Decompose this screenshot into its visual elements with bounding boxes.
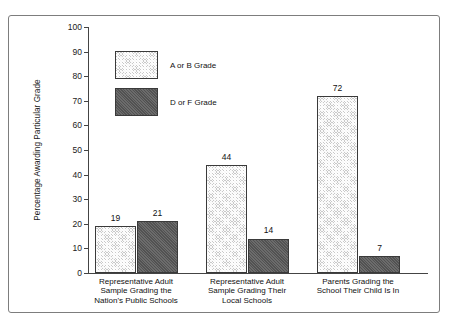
y-tick-100	[84, 27, 88, 28]
y-tick-label-100: 100	[56, 23, 82, 31]
category-label-3-line-2: School Their Child Is In	[293, 286, 423, 295]
bar-value-group2-a-or-b: 44	[206, 153, 247, 162]
bar-group1-a-or-b	[95, 226, 136, 273]
y-tick-label-20: 20	[56, 220, 82, 228]
category-label-3-line-1: Parents Grading the	[293, 277, 423, 286]
bar-group2-d-or-f	[248, 239, 289, 273]
bar-value-group3-d-or-f: 7	[359, 244, 400, 253]
legend-swatch-d-or-f	[115, 88, 158, 116]
y-tick-label-70: 70	[56, 97, 82, 105]
bar-value-group1-a-or-b: 19	[95, 214, 136, 223]
y-tick-label-80: 80	[56, 72, 82, 80]
category-label-3: Parents Grading the School Their Child I…	[293, 277, 423, 296]
y-tick-10	[84, 248, 88, 249]
legend-label-a-or-b: A or B Grade	[170, 61, 216, 70]
y-tick-70	[84, 101, 88, 102]
bar-value-group3-a-or-b: 72	[317, 84, 358, 93]
bar-value-group2-d-or-f: 14	[248, 226, 289, 235]
y-tick-60	[84, 125, 88, 126]
y-tick-label-40: 40	[56, 171, 82, 179]
y-tick-40	[84, 175, 88, 176]
y-tick-0	[84, 273, 88, 274]
y-axis-line	[88, 27, 89, 274]
y-tick-label-10: 10	[56, 244, 82, 252]
legend-label-d-or-f: D or F Grade	[170, 98, 217, 107]
y-tick-label-0: 0	[56, 269, 82, 277]
bar-value-group1-d-or-f: 21	[137, 209, 178, 218]
y-axis-title: Percentage Awarding Particular Grade	[32, 50, 42, 250]
y-tick-80	[84, 76, 88, 77]
y-tick-90	[84, 52, 88, 53]
y-tick-20	[84, 224, 88, 225]
legend-swatch-a-or-b	[115, 51, 158, 79]
bar-group3-d-or-f	[359, 256, 400, 273]
category-label-2-line-3: Local Schools	[182, 296, 312, 305]
y-tick-50	[84, 150, 88, 151]
y-tick-label-60: 60	[56, 121, 82, 129]
bar-chart: Percentage Awarding Particular Grade 100…	[0, 0, 449, 326]
y-tick-label-50: 50	[56, 146, 82, 154]
y-tick-30	[84, 199, 88, 200]
y-tick-label-90: 90	[56, 48, 82, 56]
bar-group1-d-or-f	[137, 221, 178, 273]
y-tick-label-30: 30	[56, 195, 82, 203]
x-axis-line	[88, 273, 428, 274]
bar-group3-a-or-b	[317, 96, 358, 273]
bar-group2-a-or-b	[206, 165, 247, 273]
